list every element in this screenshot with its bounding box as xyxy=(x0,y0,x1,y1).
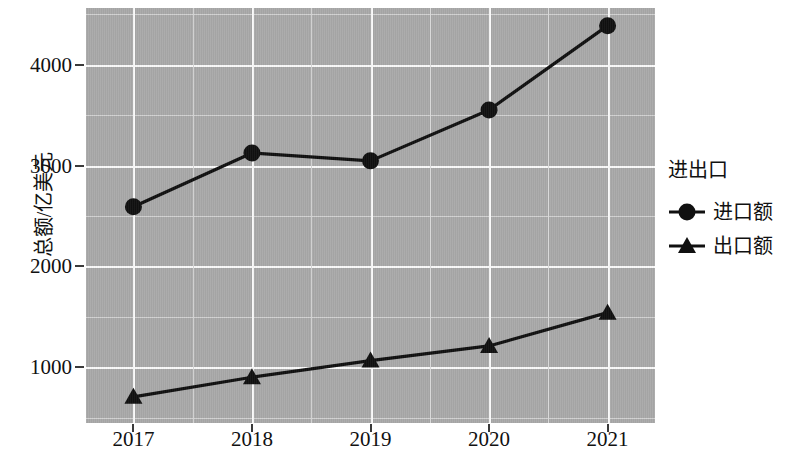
y-axis-tick-mark xyxy=(75,165,84,167)
triangle-marker xyxy=(599,304,617,320)
legend: 进出口 进口额出口额 xyxy=(668,160,785,270)
legend-item-label: 出口额 xyxy=(713,236,773,256)
y-axis-tick-label: 4000 xyxy=(0,54,72,75)
y-axis-tick-label: 1000 xyxy=(0,357,72,378)
circle-marker xyxy=(599,17,616,34)
y-axis-tick-label: 2000 xyxy=(0,256,72,277)
legend-item[interactable]: 进口额 xyxy=(668,202,785,222)
legend-item-list: 进口额出口额 xyxy=(668,202,785,256)
x-axis-tick-mark xyxy=(488,424,490,432)
legend-marker-triangle-icon xyxy=(668,236,706,256)
x-axis-tick-label: 2020 xyxy=(444,429,534,450)
y-axis-title: 总额/亿美元 xyxy=(28,85,57,325)
plot-area xyxy=(86,8,655,423)
x-axis-tick-label: 2017 xyxy=(88,429,178,450)
circle-marker xyxy=(125,198,142,215)
x-axis-tick-label: 2018 xyxy=(207,429,297,450)
circle-marker xyxy=(243,144,260,161)
y-axis-tick-mark xyxy=(75,366,84,368)
y-axis-tick-mark xyxy=(75,265,84,267)
circle-marker xyxy=(362,152,379,169)
legend-item[interactable]: 出口额 xyxy=(668,236,785,256)
circle-marker xyxy=(481,101,498,118)
x-axis-tick-label: 2019 xyxy=(326,429,416,450)
legend-marker-circle-icon xyxy=(668,202,706,222)
series-line xyxy=(133,26,607,207)
x-axis-tick-mark xyxy=(370,424,372,432)
legend-title: 进出口 xyxy=(668,160,785,180)
circle-marker xyxy=(679,204,696,221)
x-axis-tick-mark xyxy=(607,424,609,432)
legend-item-label: 进口额 xyxy=(713,202,773,222)
y-axis-tick-label: 3000 xyxy=(0,155,72,176)
x-axis-tick-mark xyxy=(132,424,134,432)
line-chart: 总额/亿美元 1000200030004000 2017201820192020… xyxy=(0,0,785,459)
y-axis-tick-mark xyxy=(75,64,84,66)
x-axis-tick-label: 2021 xyxy=(563,429,653,450)
x-axis-tick-mark xyxy=(251,424,253,432)
series-layer xyxy=(86,8,655,423)
